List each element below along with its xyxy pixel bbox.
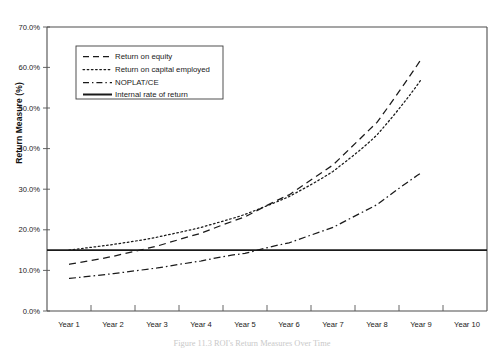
x-tick-label-year-7: Year 7 <box>322 320 344 329</box>
x-tick-label-year-3: Year 3 <box>146 320 168 329</box>
legend-label-return-on-capital-employed: Return on capital employed <box>115 65 210 74</box>
series-line-noplat-ce <box>69 173 421 278</box>
legend-label-noplat-ce: NOPLAT/CE <box>115 78 159 87</box>
y-axis-title: Return Measure (%) <box>14 68 24 178</box>
x-tick-label-year-2: Year 2 <box>102 320 124 329</box>
x-tick-label-year-9: Year 9 <box>410 320 432 329</box>
y-tick-label-20: 20.0% <box>18 225 40 234</box>
x-axis-ticks: Year 1 Year 2 Year 3 Year 4 Year 5 Year … <box>58 305 480 329</box>
y-tick-label-70: 70.0% <box>18 23 40 32</box>
legend-label-return-on-equity: Return on equity <box>115 52 172 61</box>
chart-figure: Return Measure (%) 0.0% 10.0% 20.0% 30.0… <box>0 0 504 349</box>
x-tick-label-year-1: Year 1 <box>58 320 80 329</box>
chart-legend: Return on equity Return on capital emplo… <box>76 46 223 99</box>
figure-caption: Figure 11.3 ROI's Return Measures Over T… <box>174 339 331 348</box>
series-line-return-on-capital-employed <box>69 80 421 250</box>
x-tick-label-year-5: Year 5 <box>234 320 256 329</box>
y-tick-label-30: 30.0% <box>18 185 40 194</box>
y-tick-label-0: 0.0% <box>23 307 41 316</box>
x-tick-label-year-4: Year 4 <box>190 320 212 329</box>
x-tick-label-year-8: Year 8 <box>366 320 388 329</box>
line-chart-canvas: 0.0% 10.0% 20.0% 30.0% 40.0% 50.0% 60.0%… <box>0 0 504 349</box>
x-tick-label-year-6: Year 6 <box>278 320 300 329</box>
y-tick-label-10: 10.0% <box>18 266 40 275</box>
legend-label-internal-rate-of-return: Internal rate of return <box>115 90 188 99</box>
x-tick-label-year-10: Year 10 <box>454 320 480 329</box>
